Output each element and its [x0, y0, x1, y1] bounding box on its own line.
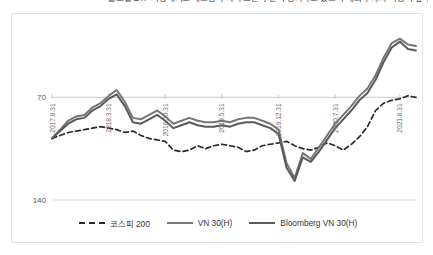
legend-item-1[interactable]: VN 30(H)	[167, 218, 233, 228]
legend-label-2: Bloomberg VN 30(H)	[280, 218, 357, 228]
legend-key-bloomberg-vn30h	[249, 222, 275, 224]
chart-card: 14070 2017.8.312018.3.312018.10.312019.5…	[11, 13, 423, 243]
x-tick-label-2: 2018.10.31	[162, 103, 169, 136]
legend-key-vn30h	[167, 222, 193, 224]
y-tick-label-1: 70	[37, 93, 46, 102]
x-tick-label-1: 2018.3.31	[105, 103, 112, 133]
y-axis-tick-labels: 14070	[33, 93, 47, 205]
legend-item-2[interactable]: Bloomberg VN 30(H)	[249, 218, 357, 228]
top-caption: 글로벌 ETF 시장에서도 베트남 투자 수요는 꾸준히 증가하고 있으며 해외…	[108, 0, 428, 3]
screenshot-root: 글로벌 ETF 시장에서도 베트남 투자 수요는 꾸준히 증가하고 있으며 해외…	[0, 0, 433, 255]
y-tick-label-0: 140	[33, 196, 47, 205]
x-tick-label-3: 2019.5.31	[218, 103, 225, 133]
legend-label-1: VN 30(H)	[198, 218, 233, 228]
x-tick-label-0: 2017.8.31	[49, 103, 56, 133]
x-tick-label-4: 2019.12.31	[275, 103, 282, 136]
x-tick-label-6: 2021.8.31	[396, 103, 403, 133]
legend-label-0: 코스피 200	[110, 217, 150, 229]
chart-legend: 코스피 200 VN 30(H) Bloomberg VN 30(H)	[12, 210, 424, 236]
x-tick-label-5: 2020.7.31	[332, 103, 339, 133]
legend-item-0[interactable]: 코스피 200	[79, 217, 150, 229]
legend-key-kospi200	[79, 222, 105, 224]
